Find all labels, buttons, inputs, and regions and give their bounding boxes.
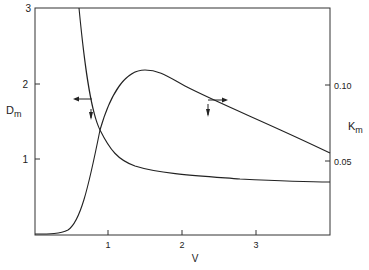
x-tick-3: 3 bbox=[253, 240, 258, 250]
x-tick-2: 2 bbox=[179, 240, 184, 250]
plot-frame bbox=[35, 8, 330, 235]
right-tick-0.05: 0.05 bbox=[334, 157, 352, 167]
km-axis-arrow bbox=[206, 98, 228, 118]
dm-axis-arrow bbox=[73, 97, 93, 121]
right-tick-0.10: 0.10 bbox=[334, 81, 352, 91]
left-tick-3: 3 bbox=[25, 3, 31, 14]
left-tick-1: 1 bbox=[22, 154, 28, 165]
x-tick-1: 1 bbox=[105, 240, 110, 250]
km-curve bbox=[35, 70, 330, 234]
right-axis: 0.10 0.05 Km bbox=[325, 81, 363, 167]
left-axis-label: Dm bbox=[6, 104, 21, 119]
right-axis-label: Km bbox=[348, 120, 363, 135]
chart: 1 2 3 Dm 0.10 0.05 Km 1 2 3 V bbox=[0, 0, 369, 270]
x-axis-label: V bbox=[192, 253, 199, 264]
left-tick-2: 2 bbox=[22, 79, 28, 90]
